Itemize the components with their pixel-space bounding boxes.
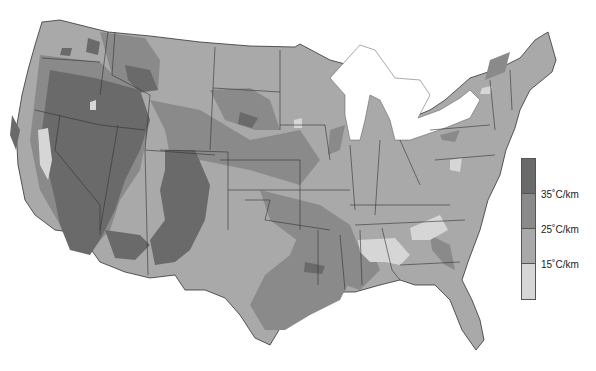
legend-swatch-over-35 [522, 159, 535, 194]
legend-swatch-25-35 [522, 194, 535, 229]
legend-label-25: 25˚C/km [541, 224, 579, 235]
legend-swatch-15-25 [522, 229, 535, 264]
legend-swatch-under-15 [522, 264, 535, 299]
legend: 35˚C/km 25˚C/km 15˚C/km [521, 158, 596, 303]
geothermal-gradient-map [0, 0, 596, 371]
legend-color-bar [521, 158, 536, 300]
legend-label-15: 15˚C/km [541, 259, 579, 270]
legend-label-35: 35˚C/km [541, 189, 579, 200]
